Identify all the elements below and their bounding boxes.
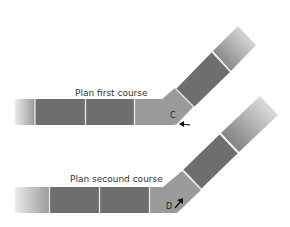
corner-letter-d: D xyxy=(166,202,172,211)
brick xyxy=(86,99,134,125)
corner-letter-c: C xyxy=(170,111,176,120)
brick xyxy=(35,99,85,125)
left-arrow-icon xyxy=(179,121,190,127)
first-course-label: Plan first course xyxy=(75,88,148,98)
brick xyxy=(100,187,149,213)
brick-course-diagram: Plan first course C Plan secound course … xyxy=(0,0,290,227)
brick-fade xyxy=(15,99,35,125)
brick xyxy=(50,187,99,213)
brick-fade xyxy=(15,187,50,213)
second-course-label: Plan secound course xyxy=(70,174,163,184)
first-course: Plan first course C xyxy=(15,26,256,127)
